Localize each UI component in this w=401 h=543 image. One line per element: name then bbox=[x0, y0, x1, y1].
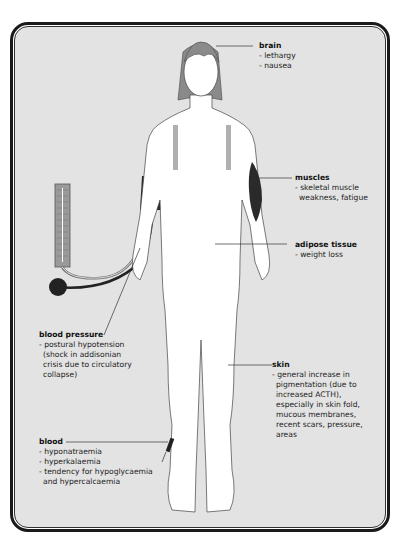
label-brain-item: - lethargy bbox=[259, 51, 296, 61]
label-blood-item: - hyponatraemia bbox=[39, 447, 153, 457]
label-skin-item: - general increase in bbox=[272, 370, 363, 380]
label-brain-item: - nausea bbox=[259, 61, 296, 71]
label-blood-pressure-item: - postural hypotension bbox=[39, 340, 132, 350]
label-muscles-item: - skeletal muscle bbox=[295, 183, 368, 193]
label-blood-pressure-item: collapse) bbox=[39, 370, 132, 380]
label-skin-item: mucous membranes, bbox=[272, 410, 363, 420]
label-blood-item: - hyperkalaemia bbox=[39, 457, 153, 467]
label-skin-item: areas bbox=[272, 430, 363, 440]
label-adipose: adipose tissue - weight loss bbox=[295, 240, 357, 260]
label-skin-item: pigmentation (due to bbox=[272, 380, 363, 390]
label-brain: brain - lethargy - nausea bbox=[259, 41, 296, 71]
label-skin-title: skin bbox=[272, 360, 363, 370]
label-blood-item: - tendency for hypoglycaemia bbox=[39, 467, 153, 477]
label-muscles: muscles - skeletal muscle weakness, fati… bbox=[295, 173, 368, 203]
label-adipose-title: adipose tissue bbox=[295, 240, 357, 250]
label-brain-title: brain bbox=[259, 41, 296, 51]
label-muscles-title: muscles bbox=[295, 173, 368, 183]
label-blood-pressure-title: blood pressure bbox=[39, 330, 132, 340]
label-skin-item: recent scars, pressure, bbox=[272, 420, 363, 430]
label-blood-title: blood bbox=[39, 437, 153, 447]
label-blood-pressure-item: crisis due to circulatory bbox=[39, 360, 132, 370]
label-adipose-item: - weight loss bbox=[295, 250, 357, 260]
label-skin-item: increased ACTH), bbox=[272, 390, 363, 400]
label-blood-pressure-item: (shock in addisonian bbox=[39, 350, 132, 360]
label-skin-item: especially in skin fold, bbox=[272, 400, 363, 410]
label-blood: blood - hyponatraemia - hyperkalaemia - … bbox=[39, 437, 153, 487]
label-skin: skin - general increase in pigmentation … bbox=[272, 360, 363, 440]
label-blood-item: and hypercalcaemia bbox=[39, 477, 153, 487]
label-muscles-item: weakness, fatigue bbox=[295, 193, 368, 203]
label-blood-pressure: blood pressure - postural hypotension (s… bbox=[39, 330, 132, 380]
human-figure bbox=[132, 42, 269, 512]
